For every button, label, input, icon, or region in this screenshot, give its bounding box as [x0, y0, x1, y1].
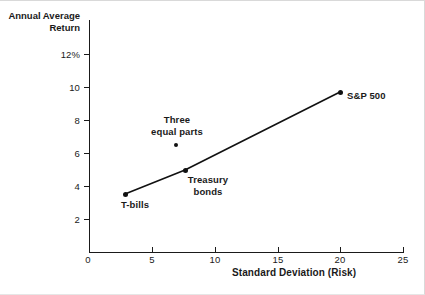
data-point-t-bills[interactable] [123, 192, 128, 197]
x-axis-title: Standard Deviation (Risk) [232, 267, 356, 278]
plot-area: Annual Average Return 12% 10 8 6 4 2 0 5… [0, 1, 425, 295]
data-label-sp-500: S&P 500 [347, 90, 386, 102]
data-label-three-equal-parts: Three equal parts [151, 114, 203, 137]
data-point-three-equal-parts[interactable] [174, 143, 178, 147]
data-point-sp-500[interactable] [338, 90, 343, 95]
data-label-t-bills: T-bills [121, 199, 149, 211]
data-label-treasury-bonds: Treasury bonds [188, 174, 228, 197]
data-point-treasury-bonds[interactable] [183, 168, 188, 173]
risk-return-line [0, 1, 425, 295]
chart-figure: Annual Average Return 12% 10 8 6 4 2 0 5… [0, 0, 425, 295]
